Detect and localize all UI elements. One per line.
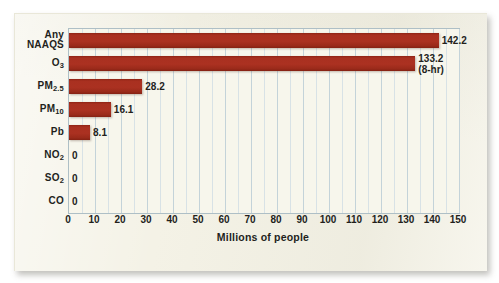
x-axis-tick-label: 50	[192, 214, 203, 226]
x-axis-tick-label: 110	[346, 214, 362, 226]
y-axis-category-label: CO	[2, 196, 64, 206]
x-axis-tick-label: 130	[398, 214, 415, 226]
x-axis-tick-label: 120	[372, 214, 389, 226]
y-axis-category-label: AnyNAAQS	[2, 30, 64, 50]
x-axis-tick-label: 90	[296, 214, 307, 226]
y-axis-category-label: Pb	[2, 127, 64, 137]
x-axis-title: Millions of people	[68, 231, 458, 243]
x-axis-tick-label: 20	[114, 214, 125, 226]
x-axis-tick-label: 100	[320, 214, 337, 226]
y-axis-category-label: PM2.5	[2, 81, 64, 92]
y-axis-category-label: O3	[2, 58, 64, 69]
x-axis-tick-label: 60	[218, 214, 229, 226]
x-axis-tick-label: 150	[450, 214, 467, 226]
x-axis-tick-label: 10	[88, 214, 99, 226]
x-axis-tick-label: 30	[140, 214, 151, 226]
x-axis-tick-label: 140	[424, 214, 441, 226]
x-axis-tick-label: 80	[270, 214, 281, 226]
bars-group	[69, 29, 459, 213]
x-axis-tick-label: 0	[65, 214, 71, 226]
bar	[69, 56, 415, 71]
x-axis-tick-label: 70	[244, 214, 255, 226]
y-axis-category-label: PM10	[2, 104, 64, 115]
x-axis-tick-label: 40	[166, 214, 177, 226]
bar	[69, 125, 90, 140]
gridline	[459, 29, 460, 213]
chart-figure: AnyNAAQSO3PM2.5PM10PbNO2SO2CO 142.2133.2…	[0, 0, 499, 283]
y-axis-category-label: NO2	[2, 150, 64, 161]
bar	[69, 79, 142, 94]
y-axis-category-label: SO2	[2, 173, 64, 184]
bar	[69, 33, 439, 48]
y-axis-labels: AnyNAAQSO3PM2.5PM10PbNO2SO2CO	[0, 28, 64, 212]
plot-area	[68, 28, 460, 214]
x-axis-ticks: 0102030405060708090100110120130140150	[68, 214, 460, 230]
bar	[69, 102, 111, 117]
